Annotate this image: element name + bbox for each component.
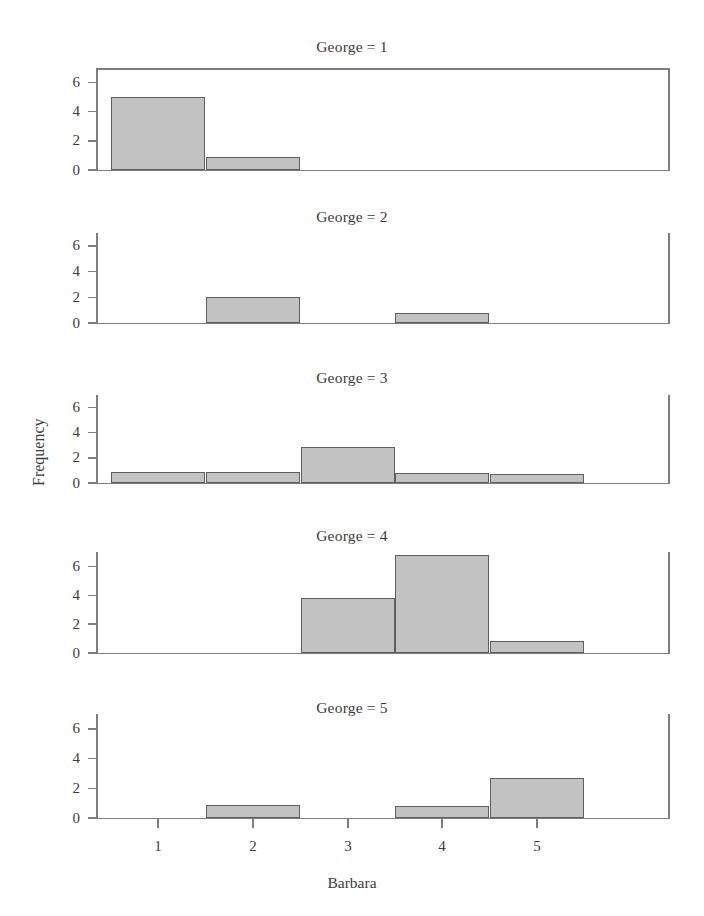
x-tick-1 [252, 819, 253, 828]
right-spine-2 [668, 233, 670, 324]
panel-title-5: George = 5 [0, 699, 704, 717]
y-tick-label-3-0: 0 [58, 476, 80, 491]
x-tick-0 [157, 819, 158, 828]
right-spine-5 [668, 714, 670, 819]
x-tick-2 [347, 819, 348, 828]
bar-panel3-cat4 [395, 473, 489, 483]
y-tick-1-1 [88, 140, 96, 141]
x-tick-label-2: 3 [333, 839, 363, 854]
panel-title-1: George = 1 [0, 38, 704, 56]
y-tick-label-4-2: 4 [58, 588, 80, 603]
y-tick-label-2-3: 6 [58, 238, 80, 253]
bar-panel1-cat1 [111, 97, 205, 170]
y-tick-label-5-1: 2 [58, 781, 80, 796]
y-tick-label-3-1: 2 [58, 450, 80, 465]
y-tick-label-2-2: 4 [58, 264, 80, 279]
y-tick-2-0 [88, 322, 96, 323]
bar-panel2-cat4 [395, 313, 489, 323]
y-tick-3-0 [88, 482, 96, 483]
x-axis-title: Barbara [0, 874, 704, 892]
y-tick-1-2 [88, 111, 96, 112]
y-tick-label-1-3: 6 [58, 75, 80, 90]
y-tick-label-1-0: 0 [58, 163, 80, 178]
y-tick-4-1 [88, 623, 96, 624]
bar-panel1-cat2 [206, 157, 300, 170]
y-tick-label-1-2: 4 [58, 104, 80, 119]
y-tick-5-3 [88, 728, 96, 729]
x-tick-label-1: 2 [238, 839, 268, 854]
y-tick-5-2 [88, 758, 96, 759]
y-axis-spine-5 [96, 714, 98, 819]
y-tick-1-0 [88, 169, 96, 170]
y-tick-label-5-3: 6 [58, 721, 80, 736]
bar-panel2-cat2 [206, 297, 300, 323]
right-spine-3 [668, 395, 670, 484]
bar-panel4-cat5 [490, 641, 584, 653]
y-axis-spine-1 [96, 68, 98, 171]
y-tick-3-2 [88, 432, 96, 433]
faceted-histogram-figure: George = 10246George = 20246George = 302… [0, 0, 704, 916]
y-axis-spine-3 [96, 395, 98, 484]
y-tick-5-0 [88, 817, 96, 818]
bar-panel5-cat4 [395, 806, 489, 818]
right-spine-4 [668, 552, 670, 654]
right-spine-1 [668, 68, 670, 171]
y-tick-4-2 [88, 595, 96, 596]
y-tick-label-5-0: 0 [58, 811, 80, 826]
x-axis-spine-3 [96, 483, 668, 484]
x-axis-spine-2 [96, 323, 668, 324]
x-tick-label-0: 1 [143, 839, 173, 854]
x-tick-4 [536, 819, 537, 828]
y-tick-2-1 [88, 297, 96, 298]
bar-panel3-cat1 [111, 472, 205, 483]
y-tick-label-1-1: 2 [58, 133, 80, 148]
y-tick-2-2 [88, 271, 96, 272]
y-axis-title: Frequency [30, 418, 48, 486]
y-tick-label-3-2: 4 [58, 425, 80, 440]
facet-panel-4: George = 40246 [0, 0, 704, 916]
x-tick-3 [441, 819, 442, 828]
x-tick-label-4: 5 [522, 839, 552, 854]
y-tick-label-4-0: 0 [58, 646, 80, 661]
x-axis-spine-1 [96, 170, 668, 171]
y-tick-label-2-0: 0 [58, 316, 80, 331]
facet-panel-3: George = 30246 [0, 0, 704, 916]
facet-panel-1: George = 10246 [0, 0, 704, 916]
bar-panel3-cat2 [206, 472, 300, 483]
y-tick-5-1 [88, 788, 96, 789]
y-tick-3-1 [88, 457, 96, 458]
panel-title-2: George = 2 [0, 208, 704, 226]
bar-panel4-cat3 [301, 598, 395, 653]
bar-panel3-cat5 [490, 474, 584, 483]
x-tick-label-3: 4 [427, 839, 457, 854]
y-tick-3-3 [88, 407, 96, 408]
y-tick-1-3 [88, 82, 96, 83]
bar-panel5-cat2 [206, 805, 300, 818]
top-spine-1 [96, 68, 670, 70]
bar-panel4-cat4 [395, 555, 489, 653]
y-tick-4-3 [88, 566, 96, 567]
y-tick-label-4-3: 6 [58, 559, 80, 574]
facet-panel-2: George = 20246 [0, 0, 704, 916]
y-axis-spine-4 [96, 552, 98, 654]
bar-panel3-cat3 [301, 447, 395, 483]
bar-panel5-cat5 [490, 778, 584, 818]
y-tick-2-3 [88, 245, 96, 246]
x-axis-spine-4 [96, 653, 668, 654]
y-tick-label-5-2: 4 [58, 751, 80, 766]
x-axis-spine-5 [96, 818, 668, 819]
panel-title-3: George = 3 [0, 369, 704, 387]
facet-panel-5: George = 5024612345 [0, 0, 704, 916]
panel-title-4: George = 4 [0, 527, 704, 545]
y-tick-label-3-3: 6 [58, 400, 80, 415]
y-tick-label-2-1: 2 [58, 290, 80, 305]
y-tick-4-0 [88, 652, 96, 653]
y-axis-spine-2 [96, 233, 98, 324]
y-tick-label-4-1: 2 [58, 617, 80, 632]
